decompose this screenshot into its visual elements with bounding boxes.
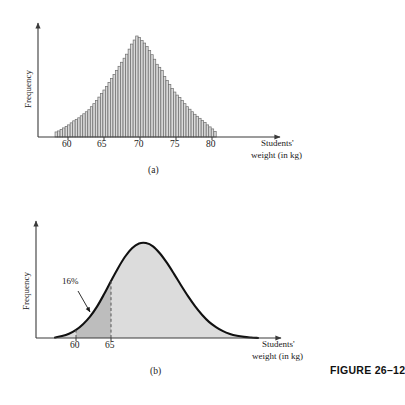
histogram-bar xyxy=(211,129,213,137)
histogram-bar xyxy=(75,119,77,137)
panel-a-xtick-70: 70 xyxy=(134,140,144,150)
histogram-bar xyxy=(186,107,188,137)
histogram-bar xyxy=(98,97,100,137)
panel-b-x-axis-label-line2: weight (in kg) xyxy=(252,352,303,361)
histogram-bar xyxy=(88,110,90,137)
histogram-bar xyxy=(103,90,105,137)
histogram-bar xyxy=(153,59,155,137)
panel-b-x-axis-label-line1: Students' xyxy=(262,340,295,349)
histogram-bar xyxy=(184,104,186,137)
histogram-bar xyxy=(136,36,138,137)
histogram-bar xyxy=(105,87,107,138)
histogram-bar xyxy=(55,132,57,137)
histogram-bar xyxy=(68,125,70,137)
histogram-bar xyxy=(93,104,95,137)
histogram-bar xyxy=(73,121,75,137)
histogram-bar xyxy=(181,101,183,137)
histogram-bar xyxy=(209,127,211,137)
panel-b-y-axis-label: Frequency xyxy=(22,272,31,310)
histogram-bar xyxy=(173,92,175,137)
panel-a-xtick-60: 60 xyxy=(62,140,72,150)
percentage-annotation: 16% xyxy=(62,277,79,286)
panel-b-caption: (b) xyxy=(150,367,161,377)
annotation-leader-arrow xyxy=(78,291,90,312)
histogram-bar xyxy=(128,49,130,137)
histogram-bar xyxy=(113,74,115,137)
panel-a-histogram xyxy=(38,23,280,140)
histogram-bar xyxy=(168,84,170,137)
histogram-bar xyxy=(191,112,193,137)
histogram-bar xyxy=(194,114,196,137)
histogram-bar xyxy=(70,123,72,137)
histogram-bar xyxy=(85,112,87,137)
histogram-bar xyxy=(166,80,168,137)
histogram-bar xyxy=(83,114,85,137)
histogram-bar xyxy=(126,54,128,137)
histogram-bar xyxy=(58,131,60,137)
histogram-bar xyxy=(141,41,143,137)
histogram-bar xyxy=(156,64,158,137)
histogram-bar xyxy=(171,89,173,137)
histogram-bar xyxy=(133,40,135,137)
histogram-bar xyxy=(131,44,133,137)
panel-a-x-axis-label-line1: Students' xyxy=(261,139,294,148)
histogram-bar xyxy=(204,122,206,137)
panel-a-xtick-80: 80 xyxy=(206,140,216,150)
histogram-bar xyxy=(158,67,160,137)
histogram-bar xyxy=(108,82,110,137)
histogram-bar xyxy=(90,107,92,137)
histogram-bar xyxy=(179,98,181,137)
histogram-bar xyxy=(161,70,163,137)
panel-a-x-axis-label-line2: weight (in kg) xyxy=(251,151,302,160)
histogram-bar xyxy=(138,38,140,137)
histogram-bar xyxy=(206,125,208,137)
panel-b-xtick-65: 65 xyxy=(105,341,115,351)
histogram-bar xyxy=(100,94,102,137)
panel-a-xtick-75: 75 xyxy=(170,140,180,150)
histogram-bar xyxy=(118,66,120,137)
histogram-bar xyxy=(123,58,125,137)
figure-number-caption: FIGURE 26–12 xyxy=(330,365,405,376)
histogram-bar xyxy=(95,101,97,137)
histogram-bar xyxy=(116,70,118,137)
panel-b-xtick-60: 60 xyxy=(70,341,80,351)
histogram-bar xyxy=(78,118,80,137)
histogram-bar xyxy=(60,129,62,137)
histogram-bar xyxy=(146,47,148,137)
panel-a-xtick-65: 65 xyxy=(97,140,107,150)
histogram-bar xyxy=(121,62,123,137)
histogram-bar xyxy=(196,116,198,137)
histogram-bar xyxy=(148,51,150,137)
histogram-bar xyxy=(110,78,112,137)
histogram-bar xyxy=(80,116,82,137)
histogram-bar xyxy=(143,43,145,137)
histogram-bar xyxy=(199,118,201,137)
histogram-bar xyxy=(163,76,165,137)
histogram-bar xyxy=(201,120,203,137)
histogram-bar xyxy=(214,131,216,137)
panel-a-caption: (a) xyxy=(148,166,159,176)
histogram-bar xyxy=(65,126,67,137)
panel-a-y-axis-label: Frequency xyxy=(24,70,33,108)
histogram-bar xyxy=(151,55,153,137)
histogram-bars xyxy=(55,36,216,137)
histogram-bar xyxy=(189,109,191,137)
histogram-bar xyxy=(63,128,65,137)
histogram-bar xyxy=(176,95,178,137)
